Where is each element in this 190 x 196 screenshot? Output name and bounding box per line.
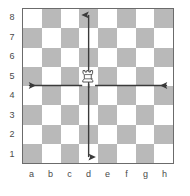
square-b8 (42, 9, 61, 28)
square-b4 (42, 86, 61, 105)
file-label-a: a (22, 166, 41, 182)
square-a5 (23, 67, 42, 86)
square-e2 (98, 125, 117, 144)
square-h6 (154, 48, 173, 67)
square-e6 (98, 48, 117, 67)
square-g4 (136, 86, 155, 105)
square-a1 (23, 144, 42, 163)
square-d8 (79, 9, 98, 28)
square-b5 (42, 67, 61, 86)
square-f3 (117, 105, 136, 124)
square-d7 (79, 28, 98, 47)
square-g7 (136, 28, 155, 47)
rank-label-5: 5 (4, 67, 20, 87)
square-g3 (136, 105, 155, 124)
rank-label-4: 4 (4, 86, 20, 106)
rank-label-1: 1 (4, 145, 20, 165)
square-a6 (23, 48, 42, 67)
square-g2 (136, 125, 155, 144)
rank-label-3: 3 (4, 106, 20, 126)
square-c6 (61, 48, 80, 67)
square-f1 (117, 144, 136, 163)
square-c2 (61, 125, 80, 144)
file-label-d: d (79, 166, 98, 182)
square-e4 (98, 86, 117, 105)
square-d2 (79, 125, 98, 144)
square-b6 (42, 48, 61, 67)
white-rook-piece (79, 67, 98, 86)
square-c8 (61, 9, 80, 28)
rank-label-6: 6 (4, 47, 20, 67)
square-g8 (136, 9, 155, 28)
square-e1 (98, 144, 117, 163)
square-f2 (117, 125, 136, 144)
square-c3 (61, 105, 80, 124)
square-h2 (154, 125, 173, 144)
file-label-b: b (41, 166, 60, 182)
file-label-h: h (155, 166, 174, 182)
square-c4 (61, 86, 80, 105)
chess-rook-move-diagram: 8 7 6 5 4 3 2 1 (0, 0, 190, 196)
square-h5 (154, 67, 173, 86)
square-b2 (42, 125, 61, 144)
square-a7 (23, 28, 42, 47)
rank-label-2: 2 (4, 125, 20, 145)
square-g1 (136, 144, 155, 163)
board-squares (23, 9, 173, 163)
square-f4 (117, 86, 136, 105)
square-d6 (79, 48, 98, 67)
square-a4 (23, 86, 42, 105)
square-b3 (42, 105, 61, 124)
square-h7 (154, 28, 173, 47)
square-h8 (154, 9, 173, 28)
rook-icon (80, 68, 97, 85)
square-c1 (61, 144, 80, 163)
square-b1 (42, 144, 61, 163)
file-label-g: g (136, 166, 155, 182)
square-h4 (154, 86, 173, 105)
chess-board (22, 8, 174, 164)
file-label-f: f (117, 166, 136, 182)
file-label-e: e (98, 166, 117, 182)
square-c5 (61, 67, 80, 86)
rank-label-8: 8 (4, 8, 20, 28)
square-d4 (79, 86, 98, 105)
square-c7 (61, 28, 80, 47)
rank-labels: 8 7 6 5 4 3 2 1 (4, 8, 20, 164)
square-h1 (154, 144, 173, 163)
square-f8 (117, 9, 136, 28)
square-h3 (154, 105, 173, 124)
square-e7 (98, 28, 117, 47)
square-a3 (23, 105, 42, 124)
rank-label-7: 7 (4, 28, 20, 48)
square-f6 (117, 48, 136, 67)
square-g6 (136, 48, 155, 67)
square-a8 (23, 9, 42, 28)
square-a2 (23, 125, 42, 144)
square-f5 (117, 67, 136, 86)
square-d1 (79, 144, 98, 163)
square-d3 (79, 105, 98, 124)
square-e3 (98, 105, 117, 124)
file-label-c: c (60, 166, 79, 182)
file-labels: a b c d e f g h (22, 166, 174, 182)
square-e5 (98, 67, 117, 86)
square-e8 (98, 9, 117, 28)
square-f7 (117, 28, 136, 47)
square-b7 (42, 28, 61, 47)
square-g5 (136, 67, 155, 86)
